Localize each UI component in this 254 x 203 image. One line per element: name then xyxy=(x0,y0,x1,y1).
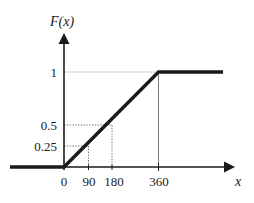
y-tick-label-0-5: 0.5 xyxy=(41,118,57,133)
y-tick-label-0-25: 0.25 xyxy=(34,139,57,154)
y-tick-label-1: 1 xyxy=(51,65,58,80)
x-tick-label-180: 180 xyxy=(104,174,124,189)
x-axis-label: x xyxy=(234,174,242,189)
x-tick-label-360: 360 xyxy=(149,174,169,189)
x-tick-label-0: 0 xyxy=(61,174,68,189)
cdf-figure: 1 0.5 0.25 0 90 180 360 F(x) x xyxy=(0,0,254,203)
cdf-plot-canvas: 1 0.5 0.25 0 90 180 360 F(x) x xyxy=(0,0,254,203)
y-axis-label: F(x) xyxy=(49,14,74,30)
x-tick-label-90: 90 xyxy=(83,174,96,189)
